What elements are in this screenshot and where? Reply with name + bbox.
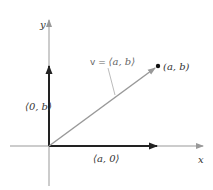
x-axis-label: x [198, 154, 204, 165]
vertical-component-label: ⟨0, b⟩ [25, 101, 52, 112]
point-a-b [156, 64, 160, 68]
v-vector [49, 68, 155, 146]
vector-diagram: y x ⟨0, b⟩ ⟨a, 0⟩ v = ⟨a, b⟩ (a, b) [0, 0, 213, 190]
v-label-leader-line [108, 68, 115, 95]
point-label: (a, b) [163, 61, 190, 72]
v-label-value: ⟨a, b⟩ [109, 56, 136, 67]
v-label: v = ⟨a, b⟩ [90, 56, 135, 67]
y-axis-label: y [39, 19, 46, 30]
horizontal-component-label: ⟨a, 0⟩ [93, 153, 120, 164]
v-label-prefix: v = [90, 57, 109, 67]
